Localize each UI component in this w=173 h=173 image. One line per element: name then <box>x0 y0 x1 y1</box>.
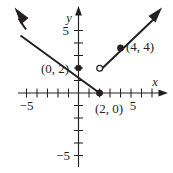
x-axis-label: x <box>151 75 158 89</box>
graph-canvas: y x −5 5 5 −5 (0, 2) (2, 0) (4, 4) <box>0 0 173 173</box>
point-marker-open-2-2 <box>97 65 103 71</box>
annotation-point-0-2: (0, 2) <box>41 61 69 76</box>
increasing-branch-arrow-icon <box>149 8 163 23</box>
y-axis-arrow-icon <box>75 6 82 16</box>
point-marker-0-2 <box>76 65 82 71</box>
x-tick-label-neg5: −5 <box>20 98 34 113</box>
point-marker-4-4 <box>117 45 123 51</box>
y-tick-label-neg5: −5 <box>56 148 70 163</box>
x-axis-arrow-icon <box>159 90 169 97</box>
annotation-point-2-0: (2, 0) <box>95 101 123 116</box>
axis-group <box>18 6 168 167</box>
point-marker-2-0 <box>96 90 102 96</box>
x-tick-label-5: 5 <box>130 98 137 113</box>
series-decreasing-branch <box>15 8 100 94</box>
annotation-point-4-4: (4, 4) <box>126 39 154 54</box>
piecewise-function-figure: y x −5 5 5 −5 (0, 2) (2, 0) (4, 4) <box>0 0 173 173</box>
marked-points <box>76 45 124 96</box>
y-tick-label-5: 5 <box>63 23 70 38</box>
